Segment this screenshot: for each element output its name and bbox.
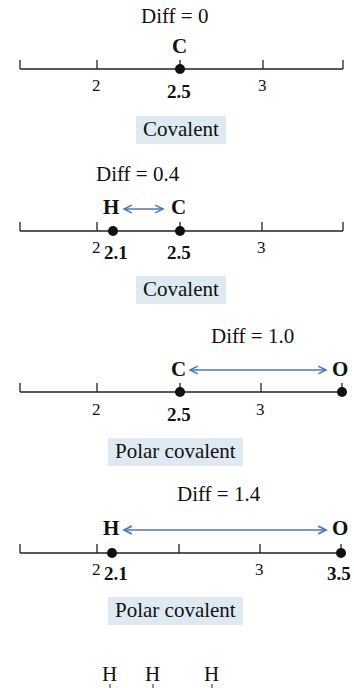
tick-label-3: 3: [258, 76, 267, 96]
bond-type-label: Polar covalent: [108, 597, 243, 625]
atom-value-o: 3.5: [327, 563, 351, 585]
atom-value-h: 2.1: [104, 563, 128, 585]
tick-label-3: 3: [255, 560, 264, 580]
atom-point: [175, 64, 185, 74]
bond-type-label: Covalent: [136, 276, 226, 304]
bond-type-label: Covalent: [136, 116, 226, 144]
panel-diff-0-4: Diff = 0.4 H C 2 2.1 2.5 3 Covalent: [0, 150, 354, 310]
atom-value-h: 2.1: [104, 242, 128, 264]
bond-stubs: [0, 630, 354, 688]
tick-label-2: 2: [92, 400, 101, 420]
atom-value: 2.5: [167, 81, 191, 103]
tick-label-2: 2: [92, 560, 101, 580]
bond-type-label: Polar covalent: [108, 438, 243, 466]
panel-diff-1-0: Diff = 1.0 C O 2 2.5 3 Polar covalent: [0, 310, 354, 470]
tick-label-3: 3: [256, 400, 265, 420]
tick-label-2: 2: [92, 76, 101, 96]
panel-diff-0: Diff = 0 C 2 3 2.5 Covalent: [0, 0, 354, 150]
atom-value-c: 2.5: [167, 404, 191, 426]
tick-label-3: 3: [257, 238, 266, 258]
tick-label-2: 2: [92, 238, 101, 258]
panel-diff-1-4: Diff = 1.4 H O 2 2.1 3 3.5 Polar covalen…: [0, 470, 354, 630]
atom-value-c: 2.5: [167, 242, 191, 264]
partial-structure: H H H: [0, 630, 354, 688]
